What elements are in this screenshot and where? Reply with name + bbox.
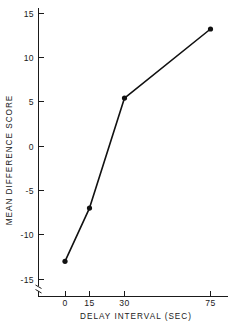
x-axis-title: DELAY INTERVAL (SEC): [80, 312, 192, 321]
y-tick-label-10: 10: [24, 53, 34, 63]
x-tick-label-30: 30: [119, 298, 129, 308]
data-point-3: [208, 26, 213, 31]
chart-figure: 15 10 5 0 -5 -10 -15 0 15 30 75 MEAN DIF…: [0, 0, 237, 324]
x-tick-label-75: 75: [205, 298, 215, 308]
series-line-mean-difference: [65, 29, 211, 261]
y-axis-title: MEAN DIFFERENCE SCORE: [5, 95, 14, 226]
data-point-1: [87, 206, 92, 211]
y-tick-label-5: 5: [29, 97, 34, 107]
line-chart-plot: 15 10 5 0 -5 -10 -15 0 15 30 75 MEAN DIF…: [0, 0, 237, 324]
y-tick-label-minus10: -10: [20, 230, 34, 240]
y-tick-label-minus5: -5: [26, 186, 34, 196]
x-tick-label-0: 0: [62, 298, 67, 308]
data-point-0: [62, 259, 67, 264]
y-tick-label-15: 15: [24, 9, 34, 19]
data-point-2: [122, 96, 127, 101]
x-tick-label-15: 15: [84, 298, 94, 308]
y-tick-label-0: 0: [29, 142, 34, 152]
y-tick-label-minus15: -15: [20, 275, 34, 285]
